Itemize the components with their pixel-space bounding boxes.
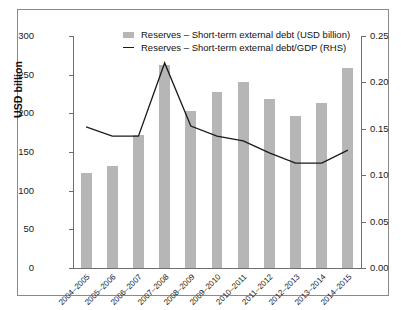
y-tick-label-right: 0.00 (370, 263, 389, 273)
y-tick-label-left: 150 (18, 147, 34, 157)
y-tick-left (69, 268, 73, 269)
y-tick-right (362, 268, 366, 269)
legend-line-icon (123, 47, 134, 48)
y-tick-label-left: 0 (29, 263, 34, 273)
y-tick-label-left: 250 (18, 70, 34, 80)
legend-swatch-icon (123, 32, 134, 38)
y-tick-label-right: 0.15 (370, 124, 389, 134)
line-path (86, 63, 348, 163)
legend-label-line: Reserves – Short-term external debt/GDP … (141, 42, 346, 54)
x-axis-line (73, 268, 362, 269)
y-tick-label-right: 0.25 (370, 31, 389, 41)
chart-legend: Reserves – Short-term external debt (USD… (123, 28, 350, 54)
chart-frame: USD billion 050100150200250300 0.000.050… (17, 9, 389, 296)
y-tick-label-left: 50 (23, 224, 34, 234)
y-tick-right (362, 36, 366, 37)
y-axis-right-line (361, 36, 362, 269)
y-tick-right (362, 82, 366, 83)
y-tick-label-right: 0.20 (370, 77, 389, 87)
y-tick-label-right: 0.05 (370, 217, 389, 227)
y-tick-label-left: 300 (18, 31, 34, 41)
plot-area (73, 36, 361, 268)
legend-item-line: Reserves – Short-term external debt/GDP … (123, 41, 350, 54)
y-tick-right (362, 222, 366, 223)
y-tick-right (362, 129, 366, 130)
y-tick-label-left: 100 (18, 186, 34, 196)
y-tick-label-left: 200 (18, 108, 34, 118)
legend-label-bars: Reserves – Short-term external debt (USD… (141, 29, 350, 41)
y-tick-label-right: 0.10 (370, 170, 389, 180)
legend-item-bars: Reserves – Short-term external debt (USD… (123, 28, 350, 41)
y-tick-right (362, 175, 366, 176)
y-axis-title: USD billion (12, 0, 24, 118)
line-series (73, 36, 361, 268)
